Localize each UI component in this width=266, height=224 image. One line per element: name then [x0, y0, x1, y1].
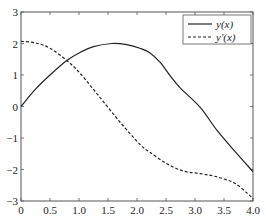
y-tick-label: 3 — [13, 6, 19, 18]
x-tick-label: 0.5 — [43, 204, 57, 216]
legend-label-y: y(x) — [215, 18, 233, 31]
y-tick-label: −1 — [6, 132, 18, 144]
x-tick-label: 2.0 — [130, 204, 144, 216]
x-tick-label: 3.0 — [188, 204, 202, 216]
y-tick-label: −2 — [6, 164, 18, 176]
y-tick-label: 1 — [13, 69, 19, 81]
x-tick-label: 0 — [18, 204, 24, 216]
y-tick-label: 0 — [13, 101, 19, 113]
x-tick-label: 1.0 — [72, 204, 86, 216]
y-tick-label: −3 — [6, 195, 18, 207]
legend-label-yprime: y'(x) — [215, 31, 236, 44]
x-tick-label: 1.5 — [101, 204, 115, 216]
legend: y(x) y'(x) — [183, 15, 251, 44]
x-tick-label: 2.5 — [159, 204, 173, 216]
y-tick-label: 2 — [13, 38, 19, 50]
line-chart: 00.51.01.52.02.53.03.54.0 −3−2−10123 y(x… — [0, 0, 266, 224]
x-tick-label: 4.0 — [246, 204, 260, 216]
x-tick-label: 3.5 — [217, 204, 231, 216]
